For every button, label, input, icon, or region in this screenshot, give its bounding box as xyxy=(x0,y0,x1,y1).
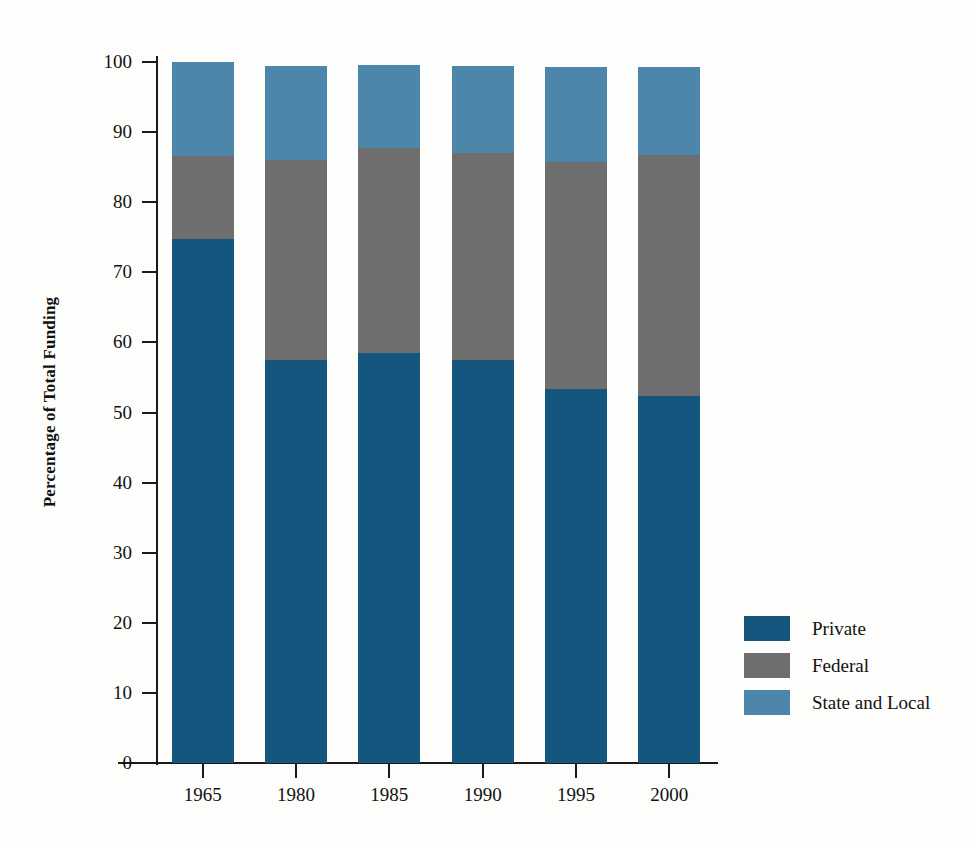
y-tick-mark xyxy=(142,271,156,273)
bar-segment-private xyxy=(452,360,514,763)
y-tick-mark xyxy=(142,762,156,764)
x-tick-label: 1980 xyxy=(251,784,341,806)
plot-area xyxy=(156,62,716,763)
y-tick-label: 20 xyxy=(86,613,132,632)
legend-item: Federal xyxy=(744,647,930,684)
bar-segment-private xyxy=(172,239,234,763)
bar-segment-state-and-local xyxy=(358,65,420,148)
y-tick-mark xyxy=(142,692,156,694)
y-tick-label: 60 xyxy=(86,332,132,351)
legend-label: State and Local xyxy=(812,692,930,714)
x-tick-mark xyxy=(388,764,390,778)
x-tick-mark xyxy=(668,764,670,778)
legend-label: Federal xyxy=(812,655,869,677)
y-tick-label: 100 xyxy=(86,52,132,71)
y-tick-mark xyxy=(142,341,156,343)
x-tick-mark xyxy=(202,764,204,778)
bar-segment-state-and-local xyxy=(172,62,234,156)
y-tick-mark xyxy=(142,131,156,133)
legend-label: Private xyxy=(812,618,866,640)
bar-segment-state-and-local xyxy=(452,66,514,154)
bar-segment-federal xyxy=(545,162,607,389)
bar-stack xyxy=(265,62,327,763)
y-tick-mark xyxy=(142,61,156,63)
bar-segment-federal xyxy=(358,148,420,353)
bar-segment-private xyxy=(638,396,700,763)
y-tick-label: 90 xyxy=(86,122,132,141)
y-axis-title: Percentage of Total Funding xyxy=(40,242,60,562)
bar-segment-state-and-local xyxy=(545,67,607,162)
bar-stack xyxy=(172,62,234,763)
bar-segment-private xyxy=(265,360,327,763)
y-tick-label: 80 xyxy=(86,192,132,211)
bar-segment-state-and-local xyxy=(265,66,327,160)
bar-segment-state-and-local xyxy=(638,67,700,155)
y-tick-mark xyxy=(142,201,156,203)
x-tick-label: 1990 xyxy=(438,784,528,806)
y-tick-label: 50 xyxy=(86,403,132,422)
y-tick-label: 0 xyxy=(86,753,132,772)
legend-swatch-state-and-local xyxy=(744,690,790,715)
bar-segment-federal xyxy=(172,156,234,239)
y-tick-mark xyxy=(142,412,156,414)
y-tick-label: 70 xyxy=(86,262,132,281)
bar-segment-federal xyxy=(452,153,514,360)
bar-stack xyxy=(638,62,700,763)
legend-swatch-federal xyxy=(744,653,790,678)
x-tick-mark xyxy=(575,764,577,778)
legend-item: State and Local xyxy=(744,684,930,721)
x-tick-label: 1985 xyxy=(344,784,434,806)
bar-stack xyxy=(545,62,607,763)
x-tick-label: 2000 xyxy=(624,784,714,806)
x-tick-label: 1965 xyxy=(158,784,248,806)
x-tick-mark xyxy=(482,764,484,778)
y-tick-label: 40 xyxy=(86,473,132,492)
bar-segment-private xyxy=(358,353,420,763)
y-tick-label: 30 xyxy=(86,543,132,562)
chart-legend: PrivateFederalState and Local xyxy=(744,610,930,721)
y-tick-label: 10 xyxy=(86,683,132,702)
stacked-bar-chart: Percentage of Total Funding 010203040506… xyxy=(0,0,976,848)
y-tick-mark xyxy=(142,622,156,624)
y-tick-mark xyxy=(142,482,156,484)
legend-item: Private xyxy=(744,610,930,647)
bar-stack xyxy=(358,62,420,763)
x-tick-mark xyxy=(295,764,297,778)
legend-swatch-private xyxy=(744,616,790,641)
x-tick-label: 1995 xyxy=(531,784,621,806)
bar-segment-private xyxy=(545,389,607,763)
bar-segment-federal xyxy=(638,155,700,396)
bar-stack xyxy=(452,62,514,763)
bar-segment-federal xyxy=(265,160,327,360)
y-tick-mark xyxy=(142,552,156,554)
